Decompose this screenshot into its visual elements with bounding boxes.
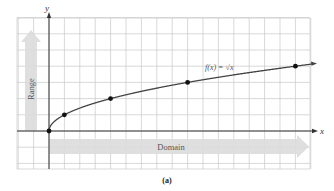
function-curve <box>49 61 317 131</box>
data-point <box>62 112 67 117</box>
data-point <box>47 129 52 134</box>
y-axis-label: y <box>44 3 49 13</box>
sqrt-curve <box>49 64 312 131</box>
sqrt-function-figure: yxRangeDomainf(x) = √x (a) <box>0 0 334 191</box>
chart-canvas: yxRangeDomainf(x) = √x <box>0 0 334 191</box>
function-label: f(x) = √x <box>205 63 234 72</box>
x-axis-arrowhead <box>312 129 318 133</box>
data-point <box>108 96 113 101</box>
x-axis-label: x <box>319 126 324 136</box>
data-point <box>293 64 298 69</box>
data-point <box>185 80 190 85</box>
curve-arrowhead <box>311 61 317 65</box>
chart-labels: yxRangeDomainf(x) = √x <box>26 3 324 152</box>
range-label: Range <box>26 78 36 100</box>
domain-label: Domain <box>157 142 185 152</box>
figure-caption: (a) <box>0 176 334 185</box>
